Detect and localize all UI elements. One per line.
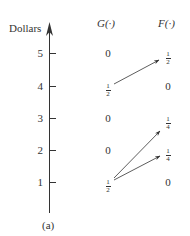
g-value-5: 0 [101,48,115,59]
tick-label-1: 1 [33,177,43,188]
column-header-f: F(·) [158,17,175,29]
tick-label-3: 3 [33,113,43,124]
f-value-5: 12 [161,47,175,65]
arrow-g4-to-f5 [114,60,159,84]
column-header-g: G(·) [97,17,115,29]
arrow-g1-to-f2 [114,156,160,180]
tick-label-4: 4 [33,81,43,92]
arrow-g1-to-f3 [114,131,160,178]
tick-label-2: 2 [33,145,43,156]
g-value-4: 12 [101,79,115,97]
f-value-2: 14 [161,144,175,162]
tick-label-5: 5 [33,48,43,59]
g-value-1: 12 [101,175,115,193]
g-value-3: 0 [101,113,115,124]
f-value-1: 0 [161,177,175,188]
figure-caption: (a) [42,220,54,231]
f-value-3: 14 [161,112,175,130]
axis-label: Dollars [9,23,41,34]
g-value-2: 0 [101,145,115,156]
f-value-4: 0 [161,81,175,92]
